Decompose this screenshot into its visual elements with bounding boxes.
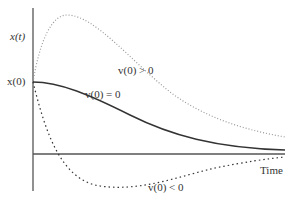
curve-negative-velocity	[33, 82, 285, 187]
damped-motion-diagram: x(t) x(0) v(0) > 0 v(0) = 0 v(0) < 0 Tim…	[0, 0, 296, 205]
v-negative-label: v(0) < 0	[148, 181, 184, 194]
curve-zero-velocity	[33, 82, 285, 150]
v-zero-label: v(0) = 0	[85, 88, 121, 101]
curve-positive-velocity	[33, 15, 285, 137]
v-positive-label: v(0) > 0	[118, 64, 154, 77]
y-axis-label: x(t)	[9, 30, 26, 43]
x-axis-label: Time	[260, 164, 283, 176]
x0-label: x(0)	[7, 75, 26, 88]
